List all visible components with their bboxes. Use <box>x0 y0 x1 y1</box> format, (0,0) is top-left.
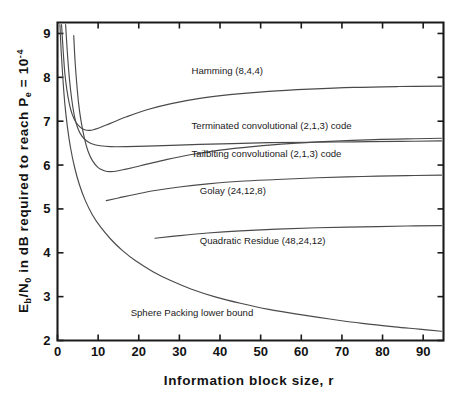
y-axis-tick-labels: 23456789 <box>43 26 51 348</box>
y-tick-label: 6 <box>43 158 50 173</box>
x-tick-label: 40 <box>213 344 227 359</box>
x-tick-label: 20 <box>132 344 146 359</box>
series-label-0: Hamming (8,4,4) <box>192 65 263 76</box>
y-axis-title-eq: = <box>16 74 31 91</box>
chart-canvas: 0102030405060708090 23456789 Hamming (8,… <box>0 0 466 397</box>
x-tick-label: 10 <box>91 344 105 359</box>
curve-labels: Hamming (8,4,4)Terminated convolutional … <box>131 65 352 319</box>
x-tick-label: 30 <box>172 344 186 359</box>
svg-text:Eb/N0 in dB required to re: Eb/N0 in dB required to reach Pe = 10-4 <box>15 49 33 313</box>
y-tick-label: 5 <box>43 201 50 216</box>
series-label-3: Golay (24,12,8) <box>200 185 266 196</box>
series-curve-3 <box>106 175 441 200</box>
x-axis-tick-labels: 0102030405060708090 <box>54 344 431 359</box>
x-tick-label: 70 <box>335 344 349 359</box>
y-axis-title: Eb/N0 in dB required to reach Pe = 10-4 <box>15 49 33 313</box>
x-tick-label: 80 <box>375 344 389 359</box>
y-tick-label: 2 <box>43 333 50 348</box>
x-axis-title: Information block size, r <box>164 373 334 388</box>
chart-figure: 0102030405060708090 23456789 Hamming (8,… <box>0 0 466 397</box>
y-axis-title-slash-n: /N <box>16 283 31 298</box>
y-axis-title-ten: 10 <box>16 58 31 74</box>
y-axis-title-exponent: -4 <box>15 49 25 58</box>
y-tick-label: 9 <box>43 26 50 41</box>
x-tick-label: 90 <box>416 344 430 359</box>
series-label-1: Terminated convolutional (2,1,3) code <box>192 120 352 131</box>
y-tick-label: 8 <box>43 70 50 85</box>
y-axis-title-mid: in dB required to reach P <box>16 97 31 277</box>
series-label-2: Tailbiting convolutional (2,1,3) code <box>192 148 342 159</box>
series-label-5: Sphere Packing lower bound <box>131 307 254 318</box>
y-tick-label: 3 <box>43 289 50 304</box>
x-tick-label: 60 <box>294 344 308 359</box>
y-tick-label: 4 <box>43 245 51 260</box>
y-tick-label: 7 <box>43 114 50 129</box>
y-axis-title-eb: E <box>16 303 31 313</box>
series-curve-0 <box>62 25 442 131</box>
series-label-4: Quadratic Residue (48,24,12) <box>200 235 326 246</box>
x-tick-label: 50 <box>253 344 267 359</box>
x-tick-label: 0 <box>54 344 61 359</box>
